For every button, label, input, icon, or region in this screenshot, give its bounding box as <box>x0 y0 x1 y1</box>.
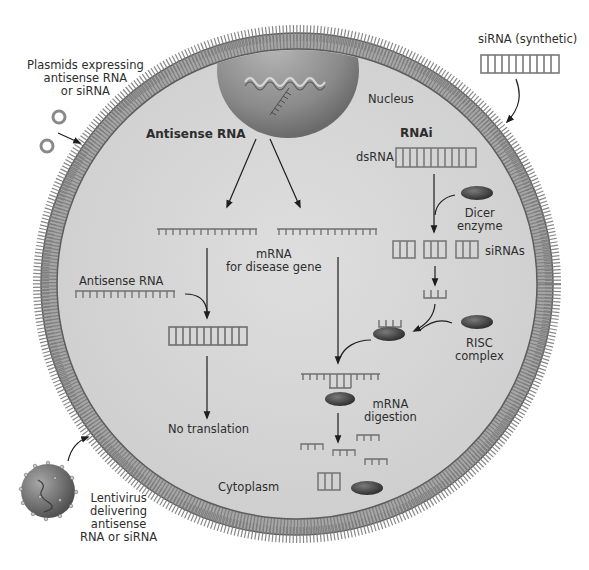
risc-on-mrna-icon <box>325 392 355 406</box>
rnai-heading: RNAi <box>400 127 433 140</box>
no-translation-label: No translation <box>168 423 249 436</box>
nucleus-label: Nucleus <box>368 93 414 106</box>
released-risc-icon <box>351 481 383 495</box>
mrna-label: mRNA for disease gene <box>226 248 322 274</box>
sirna-synthetic-duplex <box>481 55 559 73</box>
antisense-heading: Antisense RNA <box>146 128 246 141</box>
plasmid-icons <box>41 111 80 152</box>
lentivirus-label: Lentivirus delivering antisense RNA or s… <box>80 492 157 544</box>
digestion-label: mRNA digestion <box>364 398 417 424</box>
sirna-synthetic-label: siRNA (synthetic) <box>478 33 577 46</box>
risc-label: RISC complex <box>455 337 504 363</box>
dsrna-label: dsRNA <box>356 151 394 164</box>
risc-complex-icon <box>461 315 493 329</box>
antisense-rna-strand <box>75 291 175 298</box>
dicer-enzyme-icon <box>461 186 493 200</box>
sirnas-label: siRNAs <box>485 245 525 258</box>
antisense-rna-label: Antisense RNA <box>79 275 163 288</box>
nucleus <box>217 2 359 138</box>
cytoplasm-label: Cytoplasm <box>218 481 279 494</box>
plasmids-label: Plasmids expressing antisense RNA or siR… <box>27 59 144 98</box>
arrow-virus-entry <box>68 437 88 461</box>
lentivirus-icon <box>19 461 78 521</box>
arrow-sirna-entry <box>507 79 519 122</box>
dicer-label: Dicer enzyme <box>457 207 502 233</box>
